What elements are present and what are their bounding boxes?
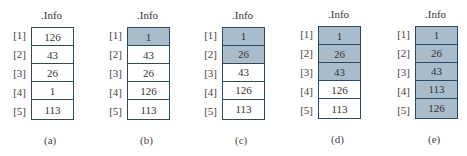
array-cell: 26 — [416, 45, 457, 63]
index-label: [1] — [390, 28, 410, 40]
index-label: [4] — [390, 85, 410, 97]
array-cell: 43 — [416, 63, 457, 81]
array-cell: 113 — [416, 81, 457, 99]
field-label: .Info — [425, 8, 446, 20]
array-cell: 126 — [416, 99, 457, 118]
index-label: [3] — [390, 66, 410, 78]
index-label: [5] — [390, 104, 410, 116]
array-panel-e: .Info[1][2][3][4][5]12643113126(e) — [0, 0, 467, 156]
panel-caption: (e) — [428, 133, 440, 145]
info-array: 12643113126 — [415, 26, 458, 119]
index-label: [2] — [390, 47, 410, 59]
array-cell: 1 — [416, 27, 457, 45]
